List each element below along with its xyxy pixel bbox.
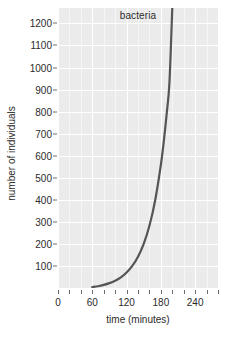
plot-area <box>58 8 218 288</box>
y-axis-tick-mark <box>53 45 57 46</box>
y-axis-tick-mark <box>53 199 57 200</box>
x-axis-tick-mark <box>207 290 208 294</box>
y-axis-tick-mark <box>53 177 57 178</box>
y-axis-tick-label: 200 <box>8 238 52 249</box>
x-axis-tick-mark <box>92 290 93 294</box>
x-axis-tick-mark <box>69 290 70 294</box>
y-axis-tick-mark <box>53 265 57 266</box>
x-axis-tick-mark <box>127 290 128 294</box>
y-axis-title: number of individuals <box>6 106 17 202</box>
bacteria-growth-curve <box>58 8 218 288</box>
x-axis-tick-mark <box>81 290 82 294</box>
x-axis-tick-mark <box>218 290 219 294</box>
x-axis-tick-mark <box>172 290 173 294</box>
y-axis-tick-mark <box>53 133 57 134</box>
x-axis-tick-mark <box>149 290 150 294</box>
y-axis-tick-mark <box>53 221 57 222</box>
x-axis-tick-mark <box>104 290 105 294</box>
y-axis-tick-mark <box>53 111 57 112</box>
y-axis-tick-label: 1200 <box>8 18 52 29</box>
x-axis-tick-mark <box>161 290 162 294</box>
y-axis-tick-mark <box>53 23 57 24</box>
y-axis-tick-mark <box>53 155 57 156</box>
y-axis-tick-label: 1000 <box>8 62 52 73</box>
curve-path <box>92 8 172 287</box>
bacteria-growth-chart: bacteria 1002003004005006007008009001000… <box>0 0 230 343</box>
x-axis-tick-mark <box>184 290 185 294</box>
chart-title: bacteria <box>58 10 218 21</box>
y-axis-tick-label: 900 <box>8 84 52 95</box>
x-axis-tick-mark <box>58 290 59 294</box>
y-axis-tick-label: 1100 <box>8 40 52 51</box>
y-axis-tick-mark <box>53 67 57 68</box>
y-axis-tick-mark <box>53 89 57 90</box>
y-axis-tick-mark <box>53 243 57 244</box>
x-axis-title: time (minutes) <box>58 314 218 325</box>
x-axis-tick-label: 240 <box>175 297 215 308</box>
x-axis-tick-mark <box>115 290 116 294</box>
x-axis-tick-mark <box>195 290 196 294</box>
y-axis-tick-label: 300 <box>8 216 52 227</box>
y-axis-tick-label: 100 <box>8 260 52 271</box>
x-axis-tick-mark <box>138 290 139 294</box>
